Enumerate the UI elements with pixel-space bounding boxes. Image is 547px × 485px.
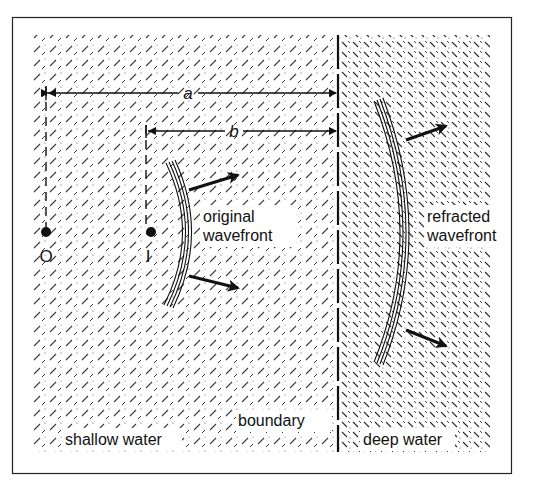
refracted-wavefront-label-line2: wavefront (426, 227, 497, 244)
distance-b-label: b (229, 122, 238, 141)
refraction-diagram: a b O I original wavefront (0, 0, 547, 485)
shallow-water-label: shallow water (65, 431, 163, 448)
original-wavefront-label-line2: wavefront (202, 227, 273, 244)
shallow-water-region (30, 35, 338, 199)
object-point-label: O (39, 247, 52, 266)
original-wavefront-label-line1: original (203, 208, 255, 225)
deep-water-label: deep water (363, 431, 443, 448)
refracted-wavefront-label-line1: refracted (427, 208, 490, 225)
distance-a-label: a (183, 84, 192, 103)
boundary-label: boundary (238, 412, 305, 429)
object-point: O (39, 227, 52, 266)
image-point-label: I (146, 247, 151, 266)
